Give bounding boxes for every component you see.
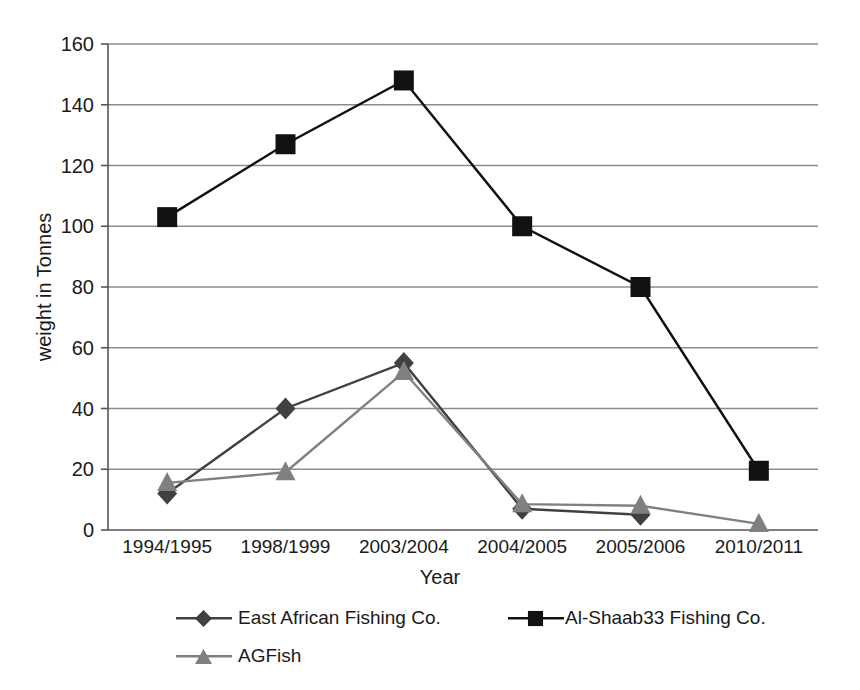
series-line [167,363,640,515]
legend-item-agfish[interactable]: AGFish [176,642,301,670]
y-tick-label: 140 [61,94,94,116]
y-tick-marks [101,44,108,530]
data-point-marker [394,70,414,90]
y-tick-label: 20 [72,458,94,480]
y-tick-labels: 020406080100120140160 [61,33,94,541]
legend-key-agfish [176,645,232,667]
legend-item-east-african[interactable]: East African Fishing Co. [176,604,441,632]
data-point-marker [276,461,296,480]
legend-item-al-shaab33[interactable]: Al-Shaab33 Fishing Co. [508,604,766,632]
legend-label-east-african: East African Fishing Co. [238,607,441,629]
y-tick-label: 100 [61,215,94,237]
plot-area: 020406080100120140160 1994/19951998/1999… [0,0,860,604]
series-line [167,80,759,470]
data-point-marker [276,398,296,420]
legend-label-al-shaab33: Al-Shaab33 Fishing Co. [565,607,766,629]
legend-key-east-african [176,607,232,629]
data-point-marker [157,207,177,227]
x-tick-label: 1998/1999 [241,536,331,557]
data-point-marker [512,216,532,236]
series-lines [167,80,759,523]
legend-key-al-shaab33 [508,607,564,629]
gridlines [108,44,818,469]
data-point-marker [749,461,769,481]
y-tick-label: 40 [72,398,94,420]
triangle-marker-icon [195,648,212,665]
y-axis-title: weight in Tonnes [33,213,55,363]
y-tick-label: 60 [72,337,94,359]
series-markers [157,70,769,531]
data-point-marker [276,134,296,154]
x-tick-label: 2003/2004 [359,536,449,557]
x-tick-label: 2004/2005 [477,536,567,557]
legend-label-agfish: AGFish [238,645,301,667]
x-tick-label: 2010/2011 [715,536,803,557]
data-point-marker [631,277,651,297]
y-tick-label: 120 [61,155,94,177]
series-line [167,372,759,524]
y-tick-label: 160 [61,33,94,55]
line-chart: 020406080100120140160 1994/19951998/1999… [0,0,860,690]
x-tick-labels: 1994/19951998/19992003/20042004/20052005… [122,536,803,557]
diamond-marker-icon [195,610,212,627]
x-tick-label: 1994/1995 [122,536,212,557]
chart-legend: East African Fishing Co. Al-Shaab33 Fish… [0,604,860,684]
square-marker-icon [527,610,544,627]
y-tick-label: 80 [72,276,94,298]
y-tick-label: 0 [83,519,94,541]
data-point-marker [631,495,651,514]
x-tick-label: 2005/2006 [596,536,686,557]
x-axis-title: Year [420,566,461,588]
